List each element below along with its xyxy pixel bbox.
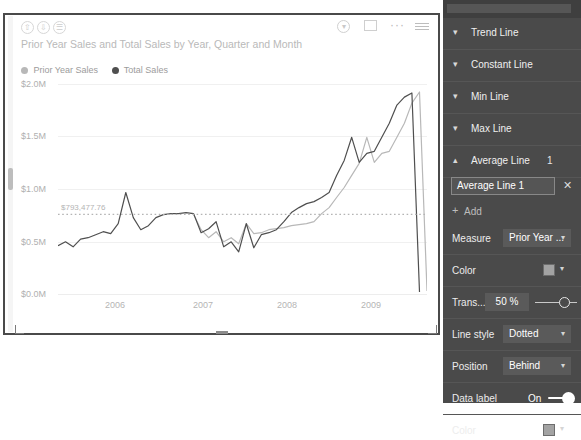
section-count-average-line: 1 bbox=[547, 155, 553, 166]
line-color-row: Color ▾ bbox=[443, 255, 581, 287]
pane-header-strip bbox=[447, 4, 571, 13]
drill-down-icon[interactable]: ⇩ bbox=[37, 21, 50, 34]
y-axis-label-2-0m: $2.0M bbox=[21, 79, 46, 89]
chart-svg bbox=[58, 78, 427, 295]
measure-label: Measure bbox=[452, 233, 491, 244]
x-axis-label-2009: 2009 bbox=[361, 300, 381, 310]
chevron-down-icon: ▾ bbox=[453, 60, 462, 69]
focus-mode-icon[interactable] bbox=[364, 20, 377, 31]
selection-handle-bottom-left[interactable] bbox=[15, 325, 24, 334]
line-style-dropdown[interactable]: Dotted ▾ bbox=[503, 325, 571, 343]
x-axis-label-2007: 2007 bbox=[193, 300, 213, 310]
color-swatch[interactable] bbox=[543, 424, 555, 436]
transparency-slider-knob[interactable] bbox=[559, 297, 570, 308]
position-dropdown[interactable]: Behind ▾ bbox=[503, 357, 571, 375]
chevron-down-icon: ▾ bbox=[453, 92, 462, 101]
data-label-color-picker[interactable]: ▾ bbox=[543, 423, 571, 437]
position-value: Behind bbox=[509, 360, 540, 371]
visual-header-actions: ▾ ··· bbox=[328, 20, 405, 36]
chevron-up-icon: ▴ bbox=[453, 156, 462, 165]
data-label-color-row: Color ▾ bbox=[443, 415, 581, 440]
selection-handle-bottom-middle[interactable] bbox=[216, 331, 228, 334]
selection-handle-bottom-right[interactable] bbox=[428, 325, 437, 334]
chevron-down-icon: ▾ bbox=[453, 124, 462, 133]
y-axis-label-1-0m: $1.0M bbox=[21, 184, 46, 194]
chevron-down-icon: ▾ bbox=[561, 325, 565, 343]
y-axis-label-0-5m: $0.5M bbox=[21, 237, 46, 247]
y-axis-label-0-0m: $0.0M bbox=[21, 289, 46, 299]
legend-swatch-total-sales bbox=[112, 67, 119, 74]
data-label-toggle[interactable] bbox=[548, 392, 574, 405]
data-label-label: Data label bbox=[452, 393, 497, 404]
section-min-line[interactable]: ▾ Min Line bbox=[443, 82, 581, 114]
x-axis-label-2008: 2008 bbox=[277, 300, 297, 310]
series-line-total-sales bbox=[58, 93, 420, 292]
line-chart-visual[interactable]: ⇧ ⇩ ☰ ▾ ··· Prior Year Sales and Total S… bbox=[13, 16, 437, 332]
more-options-icon[interactable]: ··· bbox=[390, 20, 405, 30]
average-line-name-row: Average Line 1 ✕ bbox=[443, 175, 581, 201]
average-line-settings: Average Line 1 ✕ + Add Measure Prior Yea… bbox=[443, 175, 581, 440]
report-canvas[interactable]: ⇧ ⇩ ☰ ▾ ··· Prior Year Sales and Total S… bbox=[0, 0, 443, 403]
transparency-input[interactable]: 50 % bbox=[485, 293, 529, 311]
legend-item-total-sales[interactable]: Total Sales bbox=[112, 65, 168, 75]
line-color-label: Color bbox=[452, 265, 476, 276]
chevron-down-icon[interactable]: ▾ bbox=[560, 264, 564, 273]
y-axis-label-1-5m: $1.5M bbox=[21, 131, 46, 141]
line-color-picker[interactable]: ▾ bbox=[543, 263, 571, 277]
expand-hierarchy-icon[interactable]: ☰ bbox=[53, 21, 66, 34]
transparency-value: 50 bbox=[496, 296, 507, 307]
line-style-label: Line style bbox=[452, 329, 494, 340]
visual-header: ⇧ ⇩ ☰ ▾ ··· bbox=[17, 19, 433, 37]
position-row: Position Behind ▾ bbox=[443, 351, 581, 383]
chevron-down-icon[interactable]: ▾ bbox=[560, 424, 564, 433]
chart-series-container bbox=[58, 78, 427, 295]
chart-legend[interactable]: Prior Year Sales Total Sales bbox=[21, 59, 177, 73]
plus-icon: + bbox=[452, 205, 458, 216]
color-swatch[interactable] bbox=[543, 264, 555, 276]
data-label-color-label: Color bbox=[452, 425, 476, 436]
data-label-row: Data label On bbox=[443, 383, 581, 415]
transparency-unit: % bbox=[510, 296, 519, 307]
section-constant-line[interactable]: ▾ Constant Line bbox=[443, 50, 581, 82]
chart-plot-area: $2.0M $1.5M $1.0M $0.5M $0.0M $793,477.7… bbox=[21, 78, 429, 326]
average-line-data-label: $793,477.76 bbox=[61, 203, 106, 212]
measure-dropdown[interactable]: Prior Year ... ▾ bbox=[503, 229, 571, 247]
close-icon[interactable]: ✕ bbox=[563, 179, 572, 192]
legend-label-total-sales: Total Sales bbox=[124, 65, 168, 75]
visual-title: Prior Year Sales and Total Sales by Year… bbox=[21, 38, 302, 50]
section-label-average-line: Average Line bbox=[471, 155, 530, 166]
drill-up-icon[interactable]: ⇧ bbox=[21, 21, 34, 34]
chevron-down-icon: ▾ bbox=[561, 357, 565, 375]
add-average-line-button[interactable]: + Add bbox=[443, 201, 581, 223]
line-style-row: Line style Dotted ▾ bbox=[443, 319, 581, 351]
line-style-value: Dotted bbox=[509, 328, 538, 339]
section-average-line[interactable]: ▴ Average Line 1 bbox=[443, 146, 581, 178]
section-label-trend-line: Trend Line bbox=[471, 27, 518, 38]
average-line-name-input[interactable]: Average Line 1 bbox=[451, 177, 555, 195]
legend-item-prior-year-sales[interactable]: Prior Year Sales bbox=[21, 65, 98, 75]
transparency-row: Trans... 50 % bbox=[443, 287, 581, 319]
legend-swatch-prior-year-sales bbox=[21, 67, 28, 74]
position-label: Position bbox=[452, 361, 488, 372]
chevron-down-icon: ▾ bbox=[561, 229, 565, 247]
legend-label-prior-year-sales: Prior Year Sales bbox=[34, 65, 99, 75]
add-label: Add bbox=[464, 206, 482, 217]
section-label-max-line: Max Line bbox=[471, 123, 512, 134]
chevron-down-icon: ▾ bbox=[453, 28, 462, 37]
series-line-prior-year-sales bbox=[194, 92, 427, 291]
transparency-label: Trans... bbox=[452, 297, 486, 308]
section-label-constant-line: Constant Line bbox=[471, 59, 533, 70]
section-trend-line[interactable]: ▾ Trend Line bbox=[443, 18, 581, 50]
toggle-knob bbox=[562, 392, 575, 405]
x-axis-label-2006: 2006 bbox=[105, 300, 125, 310]
formatting-pane[interactable]: ▾ Trend Line ▾ Constant Line ▾ Min Line … bbox=[443, 0, 581, 403]
pane-header bbox=[443, 0, 581, 18]
section-label-min-line: Min Line bbox=[471, 91, 509, 102]
measure-row: Measure Prior Year ... ▾ bbox=[443, 223, 581, 255]
transparency-slider-track[interactable] bbox=[535, 302, 577, 303]
filter-icon[interactable]: ▾ bbox=[337, 20, 350, 33]
hamburger-icon[interactable] bbox=[415, 23, 429, 31]
data-label-state: On bbox=[528, 393, 541, 404]
section-max-line[interactable]: ▾ Max Line bbox=[443, 114, 581, 146]
